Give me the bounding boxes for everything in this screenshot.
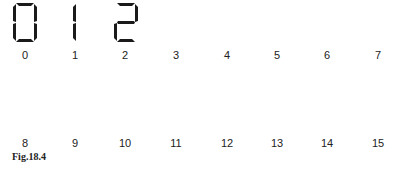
label-digit-1: 1: [60, 49, 90, 61]
seven-segment-digit-0: [13, 2, 37, 43]
label-digit-12: 12: [212, 137, 242, 149]
label-digit-3: 3: [161, 49, 191, 61]
label-digit-11: 11: [161, 137, 191, 149]
seven-segment-1-icon: [64, 2, 88, 43]
seven-segment-0-icon: [13, 2, 37, 43]
seven-segment-2-icon: [114, 2, 138, 43]
label-digit-8: 8: [10, 137, 40, 149]
seven-segment-digit-1: [64, 2, 88, 43]
label-digit-15: 15: [363, 137, 393, 149]
seven-segment-digit-2: [114, 2, 138, 43]
label-digit-10: 10: [110, 137, 140, 149]
label-digit-4: 4: [212, 49, 242, 61]
label-digit-7: 7: [363, 49, 393, 61]
label-digit-13: 13: [262, 137, 292, 149]
label-digit-9: 9: [60, 137, 90, 149]
label-digit-14: 14: [312, 137, 342, 149]
label-digit-0: 0: [10, 49, 40, 61]
label-digit-5: 5: [262, 49, 292, 61]
label-digit-6: 6: [312, 49, 342, 61]
figure-caption: Fig.18.4: [12, 151, 46, 162]
label-digit-2: 2: [110, 49, 140, 61]
